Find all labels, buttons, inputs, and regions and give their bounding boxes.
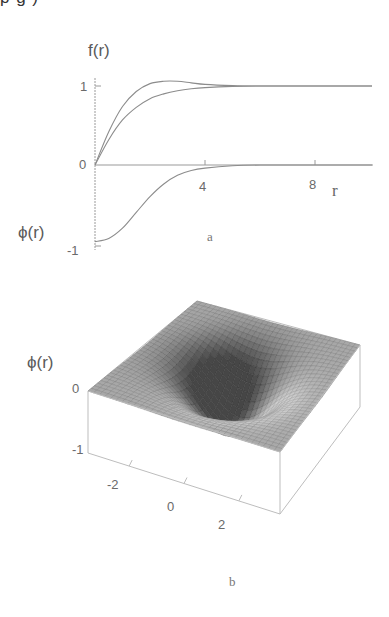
panel-b-xtick-neg2: -2 [107,478,119,491]
panel-b-xtick-0: 0 [167,500,174,513]
panel-b-zlabel-phi: ϕ(r) [27,354,54,371]
figure: p g ) f(r) 1 0 -1 4 8 r ϕ(r) a ϕ(r) 0 -1… [0,0,389,617]
box-edge [239,495,242,501]
surface-mesh [88,301,360,452]
panel-b-ztick-neg1: -1 [72,443,84,456]
box-edge [129,460,132,466]
panel-b-surface-plot [0,0,389,617]
panel-b-caption: b [229,575,236,588]
box-edge [184,478,187,484]
panel-b-ztick-0: 0 [72,382,79,395]
panel-b-xtick-2: 2 [218,518,225,531]
